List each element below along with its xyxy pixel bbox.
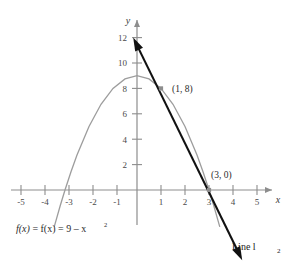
coordinate-plane-svg: -5 -4 -3 -2 -1 1 2 3 4 5 x 2 4 [0,0,300,264]
x-tick-label: 4 [231,197,236,207]
y-tick-label: 8 [123,84,128,94]
function-equation-lhs: f(x) [16,223,31,235]
function-equation-body: f(x) = 9 – x [41,223,87,235]
x-axis-arrow-icon [265,187,272,193]
y-tick-label: 10 [118,58,128,68]
graph-figure: -5 -4 -3 -2 -1 1 2 3 4 5 x 2 4 [0,0,300,264]
y-axis-arrow-icon [134,20,140,27]
function-equation-eq: = [32,223,40,234]
x-tick-label: -4 [41,197,49,207]
x-axis: -5 -4 -3 -2 -1 1 2 3 4 5 x [11,185,281,207]
x-tick-label: 5 [255,197,260,207]
function-equation-label: f(x) = f(x) = 9 – x [16,223,86,235]
line-arrow-up-icon [133,38,143,52]
x-tick-label: 1 [159,197,164,207]
y-axis-label: y [125,15,131,26]
x-tick-label: -2 [89,197,97,207]
point-marker-3-0 [207,188,211,192]
line-l2-label-subscript: 2 [277,247,281,255]
line-l2-label: Line l [232,241,256,252]
y-tick-label: 12 [118,33,127,43]
annotation-point-1-8: (1, 8) [172,84,193,95]
x-tick-label: -1 [113,197,121,207]
x-tick-label: 2 [183,197,188,207]
function-equation-exponent: 2 [104,221,107,228]
y-tick-label: 2 [123,160,128,170]
secant-line-l2 [133,38,242,261]
point-marker-1-8 [159,86,163,90]
y-tick-label: 6 [123,109,128,119]
annotation-point-3-0: (3, 0) [211,170,232,181]
x-axis-label: x [275,194,281,205]
line-l2-label-text: Line l [232,241,256,252]
y-tick-label: 4 [123,135,128,145]
x-tick-label: -3 [65,197,73,207]
x-tick-label: -5 [17,197,25,207]
